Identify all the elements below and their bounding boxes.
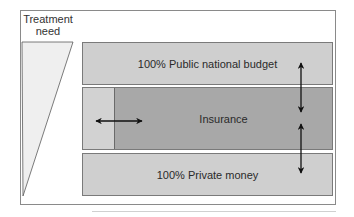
arrows-layer xyxy=(0,0,354,217)
divider xyxy=(92,211,336,212)
